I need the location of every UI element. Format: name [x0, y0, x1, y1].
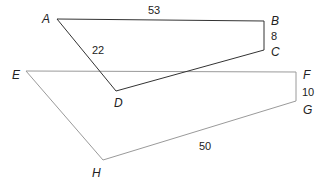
vertex-label-b: B — [271, 14, 279, 28]
similar-polygons-diagram: A B C D E F G H 53 8 22 10 50 — [0, 0, 322, 187]
polygon-abcd — [57, 19, 264, 91]
vertex-label-c: C — [271, 45, 280, 59]
vertex-label-d: D — [114, 96, 123, 110]
vertex-label-h: H — [92, 166, 101, 180]
vertex-label-f: F — [303, 68, 311, 82]
polygon-efgh — [26, 71, 296, 160]
vertex-label-a: A — [41, 12, 50, 26]
side-fg-length: 10 — [302, 86, 314, 98]
vertex-label-e: E — [12, 68, 21, 82]
side-ab-length: 53 — [148, 4, 160, 16]
vertex-label-g: G — [303, 103, 312, 117]
side-ad-length: 22 — [92, 44, 104, 56]
side-gh-length: 50 — [199, 140, 211, 152]
side-bc-length: 8 — [271, 30, 277, 42]
